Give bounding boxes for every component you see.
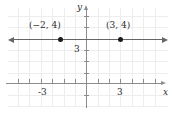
x-axis-tick <box>143 79 144 84</box>
x-axis-tick <box>29 79 30 84</box>
x-axis-arrow-right <box>161 81 166 85</box>
x-axis-tick <box>75 79 76 84</box>
y-axis-tick <box>84 95 89 96</box>
grid-line-vertical <box>75 8 76 106</box>
y-axis-tick <box>84 73 89 74</box>
data-point-left-label: (−2, 4) <box>29 21 61 30</box>
grid-line-vertical <box>64 8 65 106</box>
x-axis-tick <box>52 79 53 84</box>
y-axis-line <box>86 10 87 108</box>
grid-line-vertical <box>155 8 156 106</box>
data-point-right <box>118 37 123 42</box>
x-axis-tick <box>41 79 42 84</box>
coordinate-plane-figure: (−2, 4) (3, 4) -3 3 3 x y <box>0 0 176 113</box>
x-axis-tick <box>155 79 156 84</box>
y-axis-tick <box>84 16 89 17</box>
y-axis-tick <box>84 50 89 51</box>
grid-line-vertical <box>143 8 144 106</box>
x-tick-label-3: 3 <box>117 88 123 97</box>
x-axis-tick <box>109 79 110 84</box>
y-axis-tick <box>84 27 89 28</box>
y-axis-label: y <box>77 3 82 12</box>
x-axis-tick <box>64 79 65 84</box>
plot-line-arrow-left <box>8 37 14 43</box>
y-axis-arrow-up <box>84 5 88 10</box>
grid-line-vertical <box>98 8 99 106</box>
x-axis-tick <box>18 79 19 84</box>
data-point-right-label: (3, 4) <box>106 21 130 30</box>
x-axis-tick <box>120 79 121 84</box>
grid-line-vertical <box>132 8 133 106</box>
x-axis-tick <box>98 79 99 84</box>
y-axis-tick <box>84 61 89 62</box>
plotted-line-y-equals-4 <box>14 39 162 40</box>
y-tick-label-3: 3 <box>74 45 80 54</box>
grid-line-vertical <box>18 8 19 106</box>
data-point-left <box>58 37 63 42</box>
x-tick-label-neg-3: -3 <box>38 88 47 97</box>
x-axis-tick <box>132 79 133 84</box>
x-axis-label: x <box>163 88 168 97</box>
grid-line-horizontal <box>8 106 168 107</box>
plot-line-arrow-right <box>162 37 168 43</box>
